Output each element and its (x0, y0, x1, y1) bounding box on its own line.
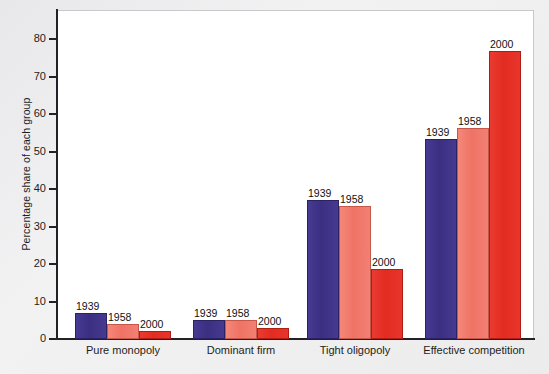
bar-label-effective-competition-1958: 1958 (458, 116, 481, 127)
bars-layer: 1939195820001939195820001939195820001939… (0, 0, 549, 374)
bar-pure-monopoly-1939 (75, 313, 107, 339)
bar-label-dominant-firm-1958: 1958 (226, 308, 249, 319)
bar-effective-competition-2000 (489, 51, 521, 339)
x-tick-label-pure-monopoly: Pure monopoly (63, 345, 183, 356)
bar-label-tight-oligopoly-1958: 1958 (340, 194, 363, 205)
bar-tight-oligopoly-1939 (307, 200, 339, 339)
bar-effective-competition-1958 (457, 128, 489, 339)
bar-tight-oligopoly-1958 (339, 206, 371, 339)
bar-dominant-firm-1939 (193, 320, 225, 339)
bar-label-pure-monopoly-2000: 2000 (140, 319, 163, 330)
bar-chart-figure: Percentage share of each group 80 70 60 … (0, 0, 549, 374)
bar-label-pure-monopoly-1939: 1939 (76, 301, 99, 312)
bar-label-tight-oligopoly-2000: 2000 (372, 257, 395, 268)
bar-effective-competition-1939 (425, 139, 457, 339)
bar-dominant-firm-1958 (225, 320, 257, 339)
bar-pure-monopoly-2000 (139, 331, 171, 339)
bar-label-effective-competition-2000: 2000 (490, 39, 513, 50)
bar-dominant-firm-2000 (257, 328, 289, 339)
x-tick-label-dominant-firm: Dominant firm (181, 345, 301, 356)
bar-label-tight-oligopoly-1939: 1939 (308, 188, 331, 199)
bar-tight-oligopoly-2000 (371, 269, 403, 339)
bar-label-effective-competition-1939: 1939 (426, 127, 449, 138)
bar-label-dominant-firm-2000: 2000 (258, 316, 281, 327)
x-tick-label-tight-oligopoly: Tight oligopoly (295, 345, 415, 356)
bar-label-dominant-firm-1939: 1939 (194, 308, 217, 319)
bar-label-pure-monopoly-1958: 1958 (108, 312, 131, 323)
x-tick-label-effective-competition: Effective competition (404, 345, 544, 356)
bar-pure-monopoly-1958 (107, 324, 139, 339)
